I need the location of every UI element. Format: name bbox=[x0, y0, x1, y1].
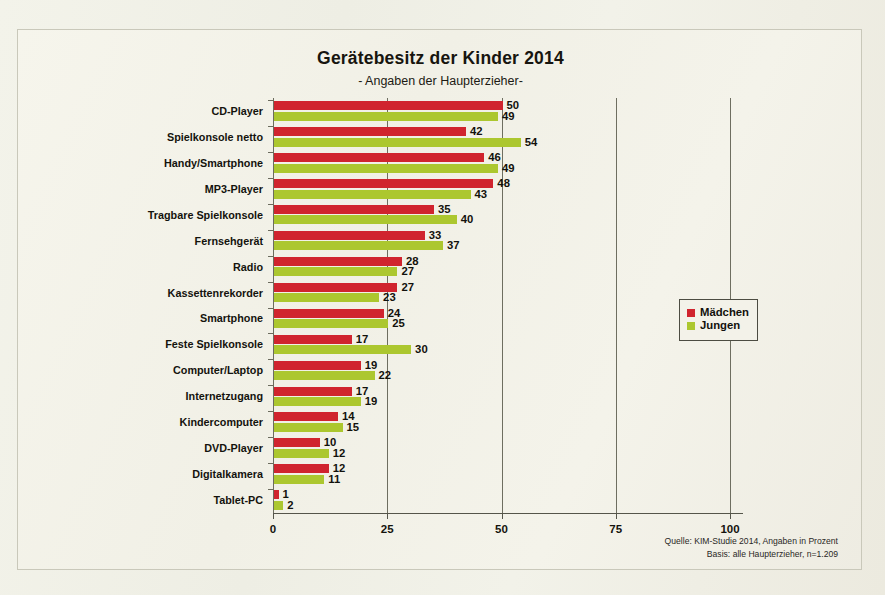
legend-label-boys: Jungen bbox=[700, 320, 740, 331]
bar-boys[interactable] bbox=[274, 423, 343, 432]
x-tick-label-25: 25 bbox=[381, 523, 394, 535]
legend-label-girls: Mädchen bbox=[700, 307, 749, 318]
category-label-internetzugang: Internetzugang bbox=[186, 391, 263, 402]
bar-boys[interactable] bbox=[274, 501, 283, 510]
chart-subtitle: - Angaben der Haupterzieher- bbox=[18, 74, 863, 88]
bar-value-label: 27 bbox=[401, 283, 414, 292]
y-tick bbox=[268, 256, 273, 257]
category-label-radio: Radio bbox=[233, 262, 263, 273]
y-tick bbox=[268, 333, 273, 334]
x-axis-line bbox=[273, 513, 743, 514]
bar-boys[interactable] bbox=[274, 293, 379, 302]
y-tick bbox=[268, 463, 273, 464]
legend-item-boys[interactable]: Jungen bbox=[687, 320, 750, 331]
x-tick-50 bbox=[502, 513, 503, 519]
bar-value-label: 27 bbox=[401, 267, 414, 276]
category-label-cd-player: CD-Player bbox=[211, 106, 263, 117]
chart-legend: Mädchen Jungen bbox=[679, 299, 758, 341]
plot-area: 0255075100 CD-Player5049Spielkonsole net… bbox=[273, 98, 730, 513]
gridline-75 bbox=[616, 98, 617, 513]
bar-value-label: 1 bbox=[283, 490, 289, 499]
bar-girls[interactable] bbox=[274, 464, 329, 473]
gridline-50 bbox=[502, 98, 503, 513]
chart-frame: Gerätebesitz der Kinder 2014 - Angaben d… bbox=[17, 29, 862, 570]
y-tick bbox=[268, 152, 273, 153]
category-label-spielkonsole-netto: Spielkonsole netto bbox=[167, 132, 263, 143]
x-tick-100 bbox=[730, 513, 731, 519]
y-tick bbox=[268, 308, 273, 309]
bar-value-label: 37 bbox=[447, 241, 460, 250]
bar-value-label: 49 bbox=[502, 112, 515, 121]
x-tick-75 bbox=[616, 513, 617, 519]
y-tick bbox=[268, 359, 273, 360]
bar-girls[interactable] bbox=[274, 257, 402, 266]
x-tick-25 bbox=[387, 513, 388, 519]
bar-value-label: 33 bbox=[429, 231, 442, 240]
y-tick bbox=[268, 204, 273, 205]
y-tick bbox=[268, 437, 273, 438]
bar-boys[interactable] bbox=[274, 371, 375, 380]
bar-boys[interactable] bbox=[274, 190, 471, 199]
category-label-tragbare-spielkonsole: Tragbare Spielkonsole bbox=[148, 210, 263, 221]
y-tick bbox=[268, 178, 273, 179]
bar-value-label: 35 bbox=[438, 205, 451, 214]
bar-girls[interactable] bbox=[274, 205, 434, 214]
category-label-digitalkamera: Digitalkamera bbox=[192, 469, 263, 480]
category-label-kassettenrekorder: Kassettenrekorder bbox=[168, 288, 263, 299]
category-label-tablet-pc: Tablet-PC bbox=[213, 495, 263, 506]
category-label-smartphone: Smartphone bbox=[200, 313, 263, 324]
bar-boys[interactable] bbox=[274, 241, 443, 250]
bar-value-label: 40 bbox=[461, 215, 474, 224]
bar-value-label: 43 bbox=[475, 190, 488, 199]
bar-value-label: 19 bbox=[365, 361, 378, 370]
source-note-line2: Basis: alle Haupterzieher, n=1.209 bbox=[18, 548, 838, 561]
bar-boys[interactable] bbox=[274, 267, 397, 276]
bar-girls[interactable] bbox=[274, 127, 466, 136]
bar-girls[interactable] bbox=[274, 179, 493, 188]
bar-boys[interactable] bbox=[274, 215, 457, 224]
bar-value-label: 54 bbox=[525, 138, 538, 147]
bar-boys[interactable] bbox=[274, 475, 324, 484]
category-label-handy-smartphone: Handy/Smartphone bbox=[164, 158, 263, 169]
bar-boys[interactable] bbox=[274, 345, 411, 354]
bar-girls[interactable] bbox=[274, 361, 361, 370]
bar-girls[interactable] bbox=[274, 231, 425, 240]
bar-value-label: 17 bbox=[356, 335, 369, 344]
bar-girls[interactable] bbox=[274, 283, 397, 292]
bar-boys[interactable] bbox=[274, 397, 361, 406]
category-label-mp3-player: MP3-Player bbox=[205, 184, 263, 195]
bar-value-label: 50 bbox=[507, 101, 520, 110]
bar-girls[interactable] bbox=[274, 309, 384, 318]
bar-boys[interactable] bbox=[274, 138, 521, 147]
bar-value-label: 48 bbox=[497, 179, 510, 188]
bar-girls[interactable] bbox=[274, 438, 320, 447]
bar-girls[interactable] bbox=[274, 101, 503, 110]
bar-boys[interactable] bbox=[274, 164, 498, 173]
x-tick-label-75: 75 bbox=[609, 523, 622, 535]
bar-girls[interactable] bbox=[274, 387, 352, 396]
category-label-feste-spielkonsole: Feste Spielkonsole bbox=[165, 339, 263, 350]
bar-boys[interactable] bbox=[274, 449, 329, 458]
bar-girls[interactable] bbox=[274, 490, 279, 499]
bar-value-label: 42 bbox=[470, 127, 483, 136]
y-tick bbox=[268, 282, 273, 283]
y-tick bbox=[268, 126, 273, 127]
bar-value-label: 25 bbox=[392, 319, 405, 328]
legend-item-girls[interactable]: Mädchen bbox=[687, 307, 750, 318]
legend-swatch-girls-icon bbox=[687, 309, 695, 317]
bar-girls[interactable] bbox=[274, 153, 484, 162]
bar-boys[interactable] bbox=[274, 319, 388, 328]
bar-boys[interactable] bbox=[274, 112, 498, 121]
category-label-kindercomputer: Kindercomputer bbox=[180, 417, 263, 428]
x-tick-label-50: 50 bbox=[495, 523, 508, 535]
chart-title: Gerätebesitz der Kinder 2014 bbox=[18, 48, 863, 69]
category-label-dvd-player: DVD-Player bbox=[204, 443, 263, 454]
bar-girls[interactable] bbox=[274, 412, 338, 421]
bar-value-label: 19 bbox=[365, 397, 378, 406]
bar-value-label: 12 bbox=[333, 449, 346, 458]
bar-girls[interactable] bbox=[274, 335, 352, 344]
legend-swatch-boys-icon bbox=[687, 322, 695, 330]
y-tick bbox=[268, 230, 273, 231]
y-tick bbox=[268, 489, 273, 490]
category-label-fernsehger-t: Fernsehgerät bbox=[195, 236, 263, 247]
